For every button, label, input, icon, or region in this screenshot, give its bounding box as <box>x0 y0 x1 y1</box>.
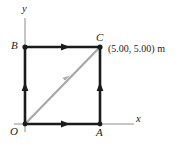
vector-OB-arrowhead <box>22 82 29 91</box>
vector-OC-diagonal <box>25 47 100 124</box>
point-label-O: O <box>10 126 18 137</box>
vector-AC-arrowhead <box>97 82 104 91</box>
vertex-dot-B <box>22 44 27 49</box>
vector-OA-arrowhead <box>61 121 70 128</box>
vector-OC-shaft <box>25 47 100 124</box>
vertex-dot-O <box>23 122 28 127</box>
vertex-dot-C <box>97 44 102 49</box>
y-axis-label: y <box>22 4 27 15</box>
point-label-C: C <box>96 32 103 43</box>
coordinate-annotation-C: (5.00, 5.00) m <box>108 44 165 54</box>
vector-BC-arrowhead <box>61 44 70 51</box>
figure-canvas <box>0 0 186 150</box>
physics-vector-figure: y x O A C B (5.00, 5.00) m <box>0 0 186 150</box>
point-label-A: A <box>96 127 103 138</box>
x-axis-label: x <box>136 114 141 125</box>
point-label-B: B <box>11 40 18 51</box>
